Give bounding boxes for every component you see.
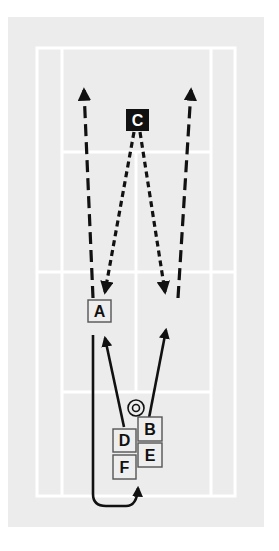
player-D: D [113, 429, 136, 452]
player-label: E [145, 447, 156, 464]
player-label: F [120, 459, 130, 476]
player-label: D [119, 432, 131, 449]
drill-diagram: C A B D E F [0, 0, 279, 551]
coach-label: C [132, 112, 144, 129]
coach-C: C [126, 109, 149, 131]
player-label: A [94, 303, 106, 320]
player-A: A [88, 300, 111, 322]
player-E: E [138, 443, 162, 467]
player-label: B [144, 421, 156, 438]
player-F: F [113, 455, 136, 479]
player-B: B [138, 417, 162, 441]
